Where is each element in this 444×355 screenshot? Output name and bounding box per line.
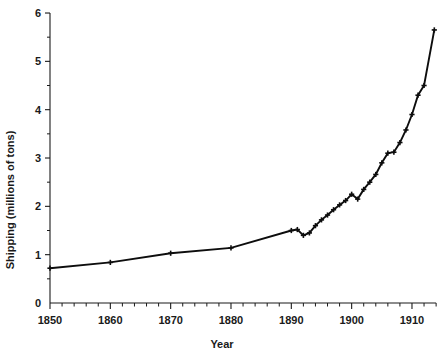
y-tick-label: 3: [35, 152, 41, 164]
data-point-marker: [228, 245, 233, 250]
data-point-marker: [432, 27, 437, 32]
x-tick-label: 1860: [98, 314, 122, 326]
shipping-line-chart: 1234560 1850186018701880189019001910 Yea…: [0, 0, 444, 355]
x-tick-label: 1910: [400, 314, 424, 326]
y-tick-label: 4: [35, 104, 42, 116]
y-tick-label-zero: 0: [35, 297, 41, 309]
data-series-group: [47, 27, 437, 270]
x-axis: 1850186018701880189019001910: [38, 303, 436, 326]
chart-canvas: 1234560 1850186018701880189019001910 Yea…: [0, 0, 444, 355]
y-tick-label: 5: [35, 55, 41, 67]
data-line: [50, 30, 434, 268]
data-point-marker: [289, 228, 294, 233]
x-tick-label: 1900: [339, 314, 363, 326]
x-tick-label: 1890: [279, 314, 303, 326]
y-axis: 1234560: [35, 7, 50, 309]
y-tick-label: 6: [35, 7, 41, 19]
x-tick-label: 1870: [158, 314, 182, 326]
x-axis-title: Year: [210, 338, 234, 350]
y-tick-label: 1: [35, 249, 41, 261]
x-tick-label: 1880: [219, 314, 243, 326]
y-tick-label: 2: [35, 200, 41, 212]
x-tick-label: 1850: [38, 314, 62, 326]
data-point-marker: [409, 112, 414, 117]
y-axis-title: Shipping (millions of tons): [4, 130, 16, 269]
data-point-marker: [108, 260, 113, 265]
data-point-marker: [47, 266, 52, 271]
data-point-marker: [168, 251, 173, 256]
